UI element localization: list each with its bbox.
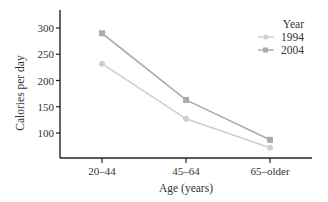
data-point [183, 97, 189, 103]
x-axis-title: Age (years) [159, 182, 213, 195]
series-layer [99, 30, 273, 150]
x-axis: 20–4445–6465–older [60, 158, 312, 177]
legend: Year 19942004 [258, 18, 304, 56]
square-marker-icon [263, 48, 268, 53]
line-chart: 100150200250300 20–4445–6465–older Calor… [0, 0, 328, 202]
legend-title: Year [283, 18, 304, 30]
data-point [99, 30, 105, 36]
data-point [183, 116, 189, 122]
data-point [267, 137, 273, 143]
circle-marker-icon [264, 35, 269, 40]
y-tick-label: 250 [38, 48, 55, 60]
y-tick-label: 200 [38, 75, 55, 87]
y-tick-label: 300 [38, 22, 55, 34]
y-axis-title: Calories per day [14, 55, 27, 131]
x-tick-label: 20–44 [88, 165, 116, 177]
legend-label: 2004 [281, 44, 304, 56]
y-tick-label: 100 [38, 127, 55, 139]
series-1994 [99, 61, 273, 151]
x-tick-label: 65–older [250, 165, 289, 177]
legend-label: 1994 [281, 31, 304, 43]
y-tick-label: 150 [38, 101, 55, 113]
legend-entry-1994: 1994 [258, 31, 304, 43]
data-point [99, 61, 105, 67]
data-point [267, 145, 273, 151]
series-2004 [99, 30, 273, 143]
x-tick-label: 45–64 [172, 165, 200, 177]
legend-entry-2004: 2004 [258, 44, 304, 56]
y-axis: 100150200250300 [38, 10, 61, 158]
